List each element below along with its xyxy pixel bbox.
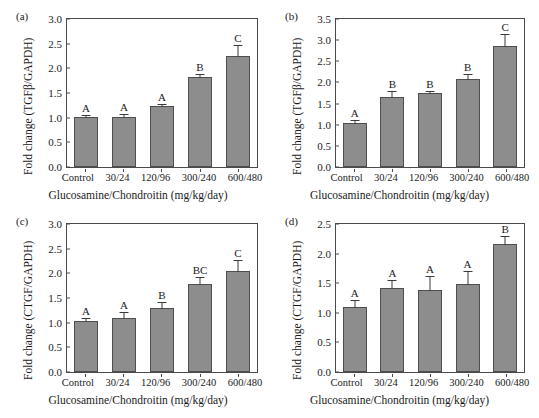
bar-cell: B xyxy=(145,224,178,372)
x-tick-label: 300/240 xyxy=(182,377,216,388)
error-bar xyxy=(238,46,239,57)
x-axis-labels-b: Control30/24120/96300/240600/480 xyxy=(325,172,535,186)
error-bar-cap xyxy=(158,302,167,303)
error-bar-cap xyxy=(388,91,397,92)
y-tick-label: 3.0 xyxy=(48,13,67,25)
panel-b: (b) Fold change (TGFβ/GAPDH) 0.00.51.01.… xyxy=(265,0,534,209)
x-tick-label: 120/96 xyxy=(409,172,438,183)
y-axis-title-d: Fold change (CTGF/GAPDH) xyxy=(291,220,305,380)
bar-cell: A xyxy=(145,19,178,167)
x-tick-label: 600/480 xyxy=(228,172,262,183)
error-bar xyxy=(200,278,201,285)
bar: A xyxy=(456,284,480,372)
error-bar-cap xyxy=(120,312,129,313)
panel-a: (a) Fold change (TGFβ/GAPDH) 0.00.51.01.… xyxy=(0,0,269,209)
bar-cell: A xyxy=(376,224,409,372)
significance-label: A xyxy=(426,263,434,275)
error-bar xyxy=(505,237,506,244)
y-tick-label: 1.0 xyxy=(48,112,67,124)
bar-cell: B xyxy=(183,19,216,167)
error-bar xyxy=(467,272,468,285)
x-tick-label: 300/240 xyxy=(449,377,483,388)
y-tick-label: 1.0 xyxy=(317,119,336,131)
x-axis-labels-d: Control30/24120/96300/240600/480 xyxy=(325,377,535,391)
x-axis-title-c: Glucosamine/Chondroitin (mg/kg/day) xyxy=(8,394,268,406)
figure-multi-panel-bar-charts: (a) Fold change (TGFβ/GAPDH) 0.00.51.01.… xyxy=(0,0,539,418)
x-tick-label: 30/24 xyxy=(105,172,129,183)
x-tick-label: Control xyxy=(62,172,94,183)
bar-cell: B xyxy=(451,19,484,167)
panel-d: (d) Fold change (CTGF/GAPDH) 0.00.51.01.… xyxy=(265,205,534,414)
significance-label: A xyxy=(351,107,359,119)
y-axis-title-b: Fold change (TGFβ/GAPDH) xyxy=(291,15,305,175)
bar-cell: A xyxy=(451,224,484,372)
error-bar xyxy=(354,301,355,309)
x-tick-label: 300/240 xyxy=(449,172,483,183)
y-tick-label: 2.5 xyxy=(48,38,67,50)
error-bar xyxy=(200,75,201,78)
y-tick-label: 1.5 xyxy=(48,292,67,304)
error-bar-cap xyxy=(463,271,472,272)
y-axis-title-c: Fold change (CTGF/GAPDH) xyxy=(22,220,36,380)
x-tick-label: 30/24 xyxy=(374,172,398,183)
bar: BC xyxy=(188,284,212,372)
bar-cell: A xyxy=(107,19,140,167)
y-tick-label: 2.0 xyxy=(317,248,336,260)
significance-label: A xyxy=(351,287,359,299)
bar: B xyxy=(418,93,442,167)
bar-cell: C xyxy=(489,19,522,167)
bar: A xyxy=(112,318,136,372)
significance-label: A xyxy=(120,299,128,311)
error-bar xyxy=(429,277,430,290)
significance-label: B xyxy=(426,78,433,90)
significance-label: C xyxy=(501,21,508,33)
error-bar-cap xyxy=(196,74,205,75)
bar-cell: B xyxy=(376,19,409,167)
significance-label: A xyxy=(158,91,166,103)
significance-label: B xyxy=(196,61,203,73)
plot-area-c: 0.00.51.01.52.02.53.0 AABBCC xyxy=(66,223,258,373)
error-bar xyxy=(392,92,393,98)
y-tick-label: 0.5 xyxy=(317,140,336,152)
error-bar xyxy=(467,75,468,80)
plot-area-a: 0.00.51.01.52.02.53.0 AAABC xyxy=(66,18,258,168)
y-tick-label: 1.5 xyxy=(317,277,336,289)
y-tick-label: 1.5 xyxy=(317,98,336,110)
y-axis-title-a: Fold change (TGFβ/GAPDH) xyxy=(22,15,36,175)
y-tick-label: 3.0 xyxy=(48,218,67,230)
bar: A xyxy=(74,321,98,372)
x-axis-title-b: Glucosamine/Chondroitin (mg/kg/day) xyxy=(265,189,534,201)
panel-c: (c) Fold change (CTGF/GAPDH) 0.00.51.01.… xyxy=(0,205,269,414)
error-bar-cap xyxy=(350,300,359,301)
bar: B xyxy=(493,244,517,372)
plot-area-b: 0.00.51.01.52.02.53.03.5 ABBBC xyxy=(335,18,525,168)
x-tick-label: 120/96 xyxy=(409,377,438,388)
error-bar-cap xyxy=(425,91,434,92)
significance-label: B xyxy=(158,289,165,301)
bar-cell: B xyxy=(414,19,447,167)
error-bar xyxy=(86,319,87,322)
plot-area-d: 0.00.51.01.52.02.5 AAAAB xyxy=(335,223,525,373)
x-tick-label: 600/480 xyxy=(228,377,262,388)
x-tick-label: 120/96 xyxy=(141,172,170,183)
bar-cell: A xyxy=(107,224,140,372)
bar-cell: A xyxy=(414,224,447,372)
error-bar xyxy=(124,313,125,318)
error-bar xyxy=(392,281,393,289)
error-bar-cap xyxy=(234,260,243,261)
significance-label: C xyxy=(234,247,241,259)
error-bar-cap xyxy=(425,276,434,277)
error-bar-cap xyxy=(234,45,243,46)
y-tick-label: 0.5 xyxy=(48,341,67,353)
x-tick-label: Control xyxy=(331,172,363,183)
significance-label: B xyxy=(389,78,396,90)
y-tick-label: 2.5 xyxy=(317,55,336,67)
significance-label: A xyxy=(464,258,472,270)
error-bar xyxy=(86,116,87,118)
x-axis-labels-a: Control30/24120/96300/240600/480 xyxy=(56,172,268,186)
bar-group-c: AABBCC xyxy=(67,224,257,372)
bar-group-b: ABBBC xyxy=(336,19,524,167)
error-bar-cap xyxy=(196,277,205,278)
bar-group-d: AAAAB xyxy=(336,224,524,372)
bar-cell: C xyxy=(221,19,254,167)
